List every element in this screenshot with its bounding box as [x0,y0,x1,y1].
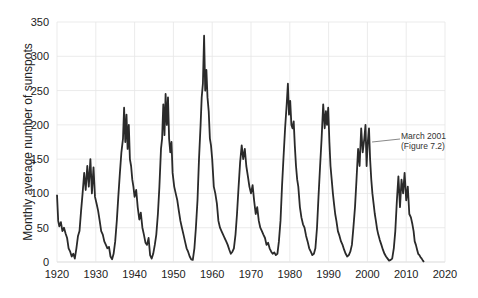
x-tick-label: 1980 [278,268,302,280]
grid-lines [57,22,445,262]
annotation-march-2001: March 2001 (Figure 7.2) [372,131,446,151]
y-axis-label: Monthly average number of sunspots [21,43,35,240]
annotation-text-line1: March 2001 [401,131,446,141]
y-tick-label: 50 [37,222,49,234]
annotation-leader-line [372,139,400,142]
x-tick-label: 1990 [316,268,340,280]
x-axis-ticks: 1920193019401950196019701980199020002010… [45,268,457,280]
y-tick-label: 350 [31,16,49,28]
sunspot-chart: 050100150200250300350 192019301940195019… [0,0,478,298]
y-tick-label: 0 [43,256,49,268]
x-tick-label: 2010 [394,268,418,280]
x-tick-label: 1920 [45,268,69,280]
x-tick-label: 2020 [433,268,457,280]
x-tick-label: 2000 [355,268,379,280]
annotation-text-line2: (Figure 7.2) [401,141,445,151]
x-tick-label: 1940 [122,268,146,280]
x-tick-label: 1930 [84,268,108,280]
x-tick-label: 1950 [161,268,185,280]
x-tick-label: 1960 [200,268,224,280]
x-tick-label: 1970 [239,268,263,280]
